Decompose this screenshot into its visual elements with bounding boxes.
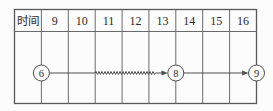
time-column-label-15: 15: [210, 14, 222, 28]
node-9: 9: [249, 65, 265, 81]
node-8-label: 8: [173, 68, 178, 79]
arrowhead-into-node-9: [242, 71, 248, 76]
node-8: 8: [168, 65, 184, 81]
arrowhead-into-node-8: [162, 71, 168, 76]
node-6: 6: [33, 65, 49, 81]
time-column-label-9: 9: [52, 14, 58, 28]
node-9-label: 9: [254, 68, 259, 79]
time-column-label-11: 11: [103, 14, 115, 28]
time-column-label-16: 16: [237, 14, 249, 28]
edge-6-8-wavy-segment: [95, 72, 162, 75]
time-scaled-network-schedule-figure: 时间 9 10 11 12 13 14 15 16 6: [0, 0, 273, 111]
time-column-label-12: 12: [130, 14, 142, 28]
node-6-label: 6: [39, 68, 44, 79]
time-column-label-14: 14: [183, 14, 195, 28]
header-row: 时间 9 10 11 12 13 14 15 16: [17, 14, 249, 28]
schedule-diagram-canvas: 时间 9 10 11 12 13 14 15 16 6: [0, 0, 273, 111]
time-column-label-13: 13: [156, 14, 168, 28]
time-header-label: 时间: [17, 15, 39, 27]
time-column-label-10: 10: [76, 14, 88, 28]
